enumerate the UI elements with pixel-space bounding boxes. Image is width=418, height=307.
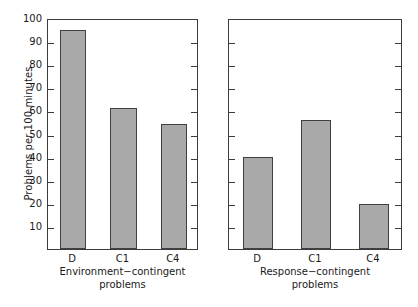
- y-axis-tick-mark: [395, 43, 401, 44]
- y-axis-tick-mark: [48, 66, 54, 67]
- x-axis-tick-label: C1: [103, 253, 143, 265]
- y-axis-tick-mark: [48, 112, 54, 113]
- caption-line-1: Response−contingent: [222, 266, 408, 279]
- y-axis-tick-mark: [395, 205, 401, 206]
- y-axis-tick-label: 80: [16, 60, 42, 70]
- bar: [301, 120, 331, 249]
- y-axis-tick-mark: [48, 228, 54, 229]
- y-axis-tick-mark: [229, 182, 235, 183]
- y-axis-tick-mark: [395, 182, 401, 183]
- y-axis-tick-label: 90: [16, 37, 42, 47]
- x-axis-tick-label: C4: [153, 253, 193, 265]
- y-axis-tick-mark: [229, 159, 235, 160]
- y-axis-tick-mark: [191, 205, 197, 206]
- y-axis-tick-mark: [229, 228, 235, 229]
- y-axis-tick-label: 60: [16, 106, 42, 116]
- y-axis-tick-mark: [48, 89, 54, 90]
- caption-line-1: Environment−contingent: [30, 266, 215, 279]
- x-axis-tick-labels-response-contingent: DC1C4: [228, 253, 402, 267]
- y-axis-tick-label: 50: [16, 130, 42, 140]
- caption-environment-contingent: Environment−contingent problems: [30, 266, 215, 291]
- y-axis-tick-labels: 102030405060708090100: [16, 0, 42, 307]
- y-axis-tick-mark: [395, 159, 401, 160]
- y-axis-tick-mark: [229, 136, 235, 137]
- y-axis-tick-mark: [395, 228, 401, 229]
- y-axis-tick-mark: [191, 136, 197, 137]
- y-axis-tick-label: 30: [16, 176, 42, 186]
- y-axis-tick-mark: [395, 89, 401, 90]
- y-axis-tick-mark: [191, 182, 197, 183]
- bar: [110, 108, 136, 249]
- y-axis-tick-mark: [48, 159, 54, 160]
- y-axis-tick-mark: [191, 112, 197, 113]
- y-axis-tick-mark: [48, 136, 54, 137]
- bar: [60, 30, 86, 249]
- y-axis-tick-label: 40: [16, 153, 42, 163]
- y-axis-tick-label: 100: [16, 14, 42, 24]
- bar: [359, 204, 389, 249]
- plot-area-environment-contingent: [48, 20, 197, 249]
- y-axis-tick-mark: [191, 66, 197, 67]
- y-axis-tick-mark: [229, 43, 235, 44]
- panel-environment-contingent: [47, 19, 198, 250]
- y-axis-tick-mark: [395, 66, 401, 67]
- y-axis-tick-mark: [229, 66, 235, 67]
- bar-chart-figure: Problems per 100 minutes 102030405060708…: [0, 0, 418, 307]
- bar: [243, 157, 273, 249]
- caption-line-2: problems: [222, 279, 408, 292]
- bar: [161, 124, 187, 249]
- y-axis-tick-mark: [191, 89, 197, 90]
- y-axis-tick-mark: [48, 43, 54, 44]
- y-axis-tick-mark: [229, 205, 235, 206]
- y-axis-tick-mark: [395, 136, 401, 137]
- x-axis-tick-labels-environment-contingent: DC1C4: [47, 253, 198, 267]
- y-axis-tick-label: 70: [16, 83, 42, 93]
- x-axis-tick-label: C4: [353, 253, 393, 265]
- y-axis-tick-mark: [191, 159, 197, 160]
- y-axis-tick-mark: [48, 205, 54, 206]
- panel-response-contingent: [228, 19, 402, 250]
- caption-response-contingent: Response−contingent problems: [222, 266, 408, 291]
- y-axis-tick-mark: [191, 43, 197, 44]
- plot-area-response-contingent: [229, 20, 401, 249]
- y-axis-tick-mark: [48, 182, 54, 183]
- caption-line-2: problems: [30, 279, 215, 292]
- y-axis-tick-mark: [191, 228, 197, 229]
- y-axis-tick-label: 20: [16, 199, 42, 209]
- x-axis-tick-label: D: [52, 253, 92, 265]
- y-axis-tick-mark: [229, 89, 235, 90]
- x-axis-tick-label: D: [237, 253, 277, 265]
- y-axis-tick-label: 10: [16, 222, 42, 232]
- y-axis-tick-mark: [395, 112, 401, 113]
- y-axis-tick-mark: [229, 112, 235, 113]
- x-axis-tick-label: C1: [295, 253, 335, 265]
